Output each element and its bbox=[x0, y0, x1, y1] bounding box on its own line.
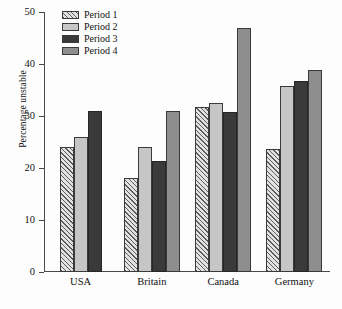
legend-item: Period 3 bbox=[62, 33, 118, 44]
bar-usa-period-3 bbox=[88, 111, 102, 272]
bar-usa-period-1 bbox=[60, 147, 74, 272]
legend-item: Period 2 bbox=[62, 21, 118, 32]
bar-usa-period-2 bbox=[74, 137, 88, 272]
bar-britain-period-1 bbox=[124, 178, 138, 272]
y-tick-label: 20 bbox=[25, 161, 36, 174]
bar-germany-period-1 bbox=[266, 149, 280, 272]
bar-group: Canada bbox=[195, 12, 251, 272]
bar-chart: Percentage unstable 01020304050 USABrita… bbox=[0, 0, 342, 309]
bar-britain-period-2 bbox=[138, 147, 152, 272]
legend-label: Period 1 bbox=[84, 9, 118, 20]
y-tick: 20 bbox=[39, 168, 44, 169]
bar-group: Britain bbox=[124, 12, 180, 272]
y-tick-label: 40 bbox=[25, 57, 36, 70]
bar-canada-period-1 bbox=[195, 107, 209, 272]
legend-swatch-icon bbox=[62, 23, 79, 31]
bar-germany-period-3 bbox=[294, 81, 308, 272]
legend-item: Period 1 bbox=[62, 9, 118, 20]
bar-canada-period-2 bbox=[209, 103, 223, 272]
y-tick-label: 30 bbox=[25, 109, 36, 122]
x-tick-label: Germany bbox=[244, 276, 342, 287]
bar-canada-period-3 bbox=[223, 112, 237, 272]
y-tick: 10 bbox=[39, 220, 44, 221]
y-tick: 50 bbox=[39, 12, 44, 13]
bar-germany-period-2 bbox=[280, 86, 294, 272]
legend-swatch-icon bbox=[62, 47, 79, 55]
y-tick-label: 10 bbox=[25, 213, 36, 226]
legend: Period 1Period 2Period 3Period 4 bbox=[62, 9, 118, 56]
bar-britain-period-3 bbox=[152, 161, 166, 272]
bar-britain-period-4 bbox=[166, 111, 180, 272]
y-tick: 0 bbox=[39, 272, 44, 273]
bar-group: Germany bbox=[266, 12, 322, 272]
bar-germany-period-4 bbox=[308, 70, 322, 272]
legend-swatch-icon bbox=[62, 11, 79, 19]
legend-swatch-icon bbox=[62, 35, 79, 43]
legend-item: Period 4 bbox=[62, 45, 118, 56]
legend-label: Period 4 bbox=[84, 45, 118, 56]
y-tick-label: 50 bbox=[25, 5, 36, 18]
y-tick: 40 bbox=[39, 64, 44, 65]
legend-label: Period 3 bbox=[84, 33, 118, 44]
legend-label: Period 2 bbox=[84, 21, 118, 32]
y-tick: 30 bbox=[39, 116, 44, 117]
bar-canada-period-4 bbox=[237, 28, 251, 272]
